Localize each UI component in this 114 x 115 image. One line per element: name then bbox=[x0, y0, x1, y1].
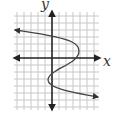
coordinate-plane bbox=[0, 0, 114, 115]
y-axis-label: y bbox=[41, 0, 49, 11]
curve-series bbox=[15, 30, 98, 97]
graph-figure: y x bbox=[0, 0, 114, 115]
x-axis-label: x bbox=[103, 54, 111, 68]
